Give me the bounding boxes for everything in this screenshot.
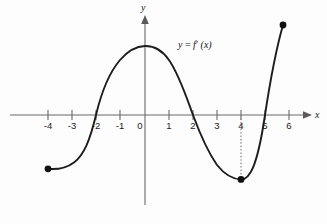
right-endpoint-dot — [280, 22, 287, 29]
x-tick-label-3: 3 — [207, 120, 227, 131]
curve-equation-label: y = f′ (x) — [178, 39, 212, 50]
plot-canvas — [0, 0, 327, 224]
curve-label-arg: (x) — [201, 39, 212, 50]
x-tick-label-4: 4 — [231, 120, 251, 131]
x-tick-label--1: -1 — [110, 120, 130, 131]
x-tick-label--4: -4 — [38, 120, 58, 131]
y-axis-arrowhead — [141, 15, 149, 24]
x-tick-label--3: -3 — [62, 120, 82, 131]
x-axis-label: x — [315, 109, 319, 120]
x-tick-label-6: 6 — [279, 120, 299, 131]
x-tick-label-1: 1 — [159, 120, 179, 131]
left-endpoint-dot — [45, 165, 52, 172]
x-tick-label-0: 0 — [130, 120, 150, 131]
x-axis-arrowhead — [303, 111, 312, 119]
y-axis-label: y — [141, 2, 145, 13]
graph-figure: -4 -3 -2 -1 0 1 2 3 4 5 6 y x y = f′ (x) — [0, 0, 327, 224]
local-minimum-dot — [238, 176, 245, 183]
curve-y-equals-f-prime-of-x — [48, 25, 283, 179]
x-tick-label-2: 2 — [183, 120, 203, 131]
x-tick-label--2: -2 — [86, 120, 106, 131]
x-tick-label-5: 5 — [255, 120, 275, 131]
